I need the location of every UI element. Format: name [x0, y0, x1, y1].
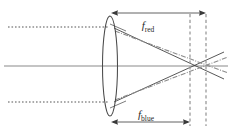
f-red-right-arrowhead	[199, 10, 206, 15]
diagram-canvas: fred fblue	[0, 0, 233, 133]
f-blue-subscript: blue	[141, 114, 155, 123]
upper-ray-red-refracted	[115, 31, 228, 73]
f-red-dimension	[111, 10, 206, 15]
f-red-left-arrowhead	[111, 10, 118, 15]
f-red-label: fred	[142, 19, 155, 34]
lower-ray-blue-refracted	[114, 52, 224, 102]
lower-ray-red-refracted	[115, 57, 228, 100]
lower-lens-edge-stub	[110, 101, 126, 108]
f-blue-right-arrowhead	[183, 119, 190, 124]
f-blue-left-arrowhead	[111, 119, 118, 124]
upper-ray-blue-refracted	[114, 28, 224, 79]
f-blue-label: fblue	[138, 108, 155, 123]
lens-diagram-figure: fred fblue	[0, 0, 233, 133]
f-red-subscript: red	[145, 25, 155, 34]
